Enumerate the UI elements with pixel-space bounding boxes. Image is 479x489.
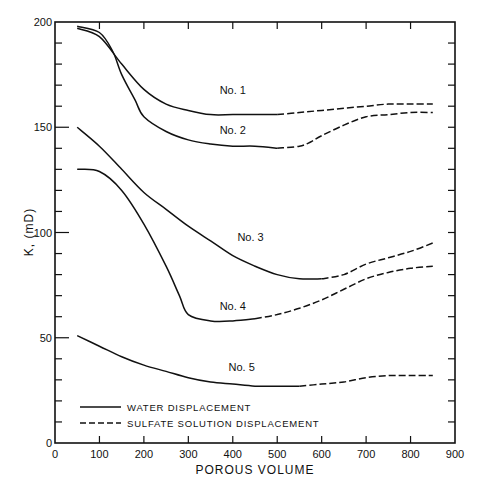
- x-tick-label: 600: [312, 448, 330, 460]
- curve-no2-sulfate: [277, 112, 433, 148]
- x-tick-label: 700: [357, 448, 375, 460]
- curve-label-no1: No. 1: [220, 84, 246, 96]
- y-tick-label: 0: [46, 437, 52, 449]
- x-tick-label: 200: [135, 448, 153, 460]
- curve-label-no5: No. 5: [229, 361, 255, 373]
- x-axis-title: POROUS VOLUME: [195, 463, 314, 477]
- x-tick-label: 500: [268, 448, 286, 460]
- curve-label-no2: No. 2: [220, 124, 246, 136]
- legend-label-sulfate: SULFATE SOLUTION DISPLACEMENT: [127, 418, 319, 429]
- curves-group: [77, 26, 433, 386]
- curve-no5-water: [77, 336, 299, 387]
- y-tick-label: 150: [34, 121, 52, 133]
- curve-no3-water: [77, 127, 322, 279]
- x-tick-label: 0: [52, 448, 58, 460]
- y-tick-label: 100: [34, 227, 52, 239]
- curve-label-no4: No. 4: [220, 300, 246, 312]
- y-tick-label: 200: [34, 16, 52, 28]
- curve-labels-group: No. 1No. 2No. 3No. 4No. 5: [220, 84, 264, 374]
- x-tick-label: 400: [224, 448, 242, 460]
- x-tick-label: 300: [179, 448, 197, 460]
- x-tick-label: 900: [446, 448, 464, 460]
- legend-label-water: WATER DISPLACEMENT: [127, 402, 251, 413]
- legend: WATER DISPLACEMENT SULFATE SOLUTION DISP…: [80, 402, 319, 429]
- y-axis-title: K, (mD): [22, 208, 36, 256]
- curve-label-no3: No. 3: [237, 231, 263, 243]
- curve-no4-water: [77, 169, 255, 321]
- x-tick-label: 100: [90, 448, 108, 460]
- x-tick-label: 800: [401, 448, 419, 460]
- curve-no1-sulfate: [277, 104, 433, 115]
- y-tick-label: 50: [40, 332, 52, 344]
- line-chart: 0100200300400500600700800900050100150200…: [0, 0, 479, 489]
- curve-no3-sulfate: [322, 243, 433, 279]
- curve-no5-sulfate: [299, 375, 432, 386]
